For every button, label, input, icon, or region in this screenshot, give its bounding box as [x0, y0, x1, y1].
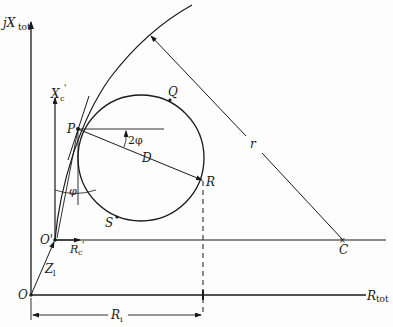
- label-jx-sub: tot: [18, 22, 31, 32]
- impedance-circle-diagram: × jX tot R tot O O' X c ' R c ' P Q R S …: [0, 0, 393, 327]
- diagram-svg: × jX tot R tot O O' X c ' R c ' P Q R S …: [0, 0, 393, 327]
- label-point-s: S: [105, 216, 113, 230]
- label-rc: R: [69, 243, 78, 256]
- label-shifted-origin: O': [40, 233, 53, 247]
- label-xc: X: [50, 87, 60, 101]
- label-rc-prime: ': [82, 240, 84, 250]
- op-line: [57, 129, 78, 238]
- label-point-p: P: [66, 122, 76, 136]
- point-s-dot: [115, 215, 118, 218]
- label-ri-sub: i: [120, 315, 123, 324]
- label-xc-sub: c: [60, 94, 65, 103]
- label-origin: O: [18, 288, 28, 302]
- angle-2phi-arrow-down: [124, 140, 126, 147]
- label-xc-prime: ': [64, 83, 66, 93]
- label-point-c: C: [339, 243, 348, 257]
- label-rtot-sub: tot: [376, 294, 389, 304]
- label-rtot: R: [366, 289, 376, 303]
- label-zl-sub: l: [53, 269, 56, 278]
- label-angle-phi: φ: [69, 185, 77, 198]
- label-point-r: R: [205, 175, 215, 189]
- radius-line-upper: [151, 36, 246, 136]
- large-arc-locus: [55, 5, 192, 240]
- label-point-q: Q: [168, 85, 178, 99]
- label-angle-2phi: 2φ: [128, 134, 143, 147]
- label-ri: R: [110, 308, 120, 322]
- radius-line-lower: [262, 153, 343, 240]
- label-jx: jX: [0, 16, 16, 30]
- label-diameter-d: D: [141, 151, 152, 165]
- impedance-circle: [78, 95, 204, 221]
- label-radius-r: r: [250, 137, 257, 151]
